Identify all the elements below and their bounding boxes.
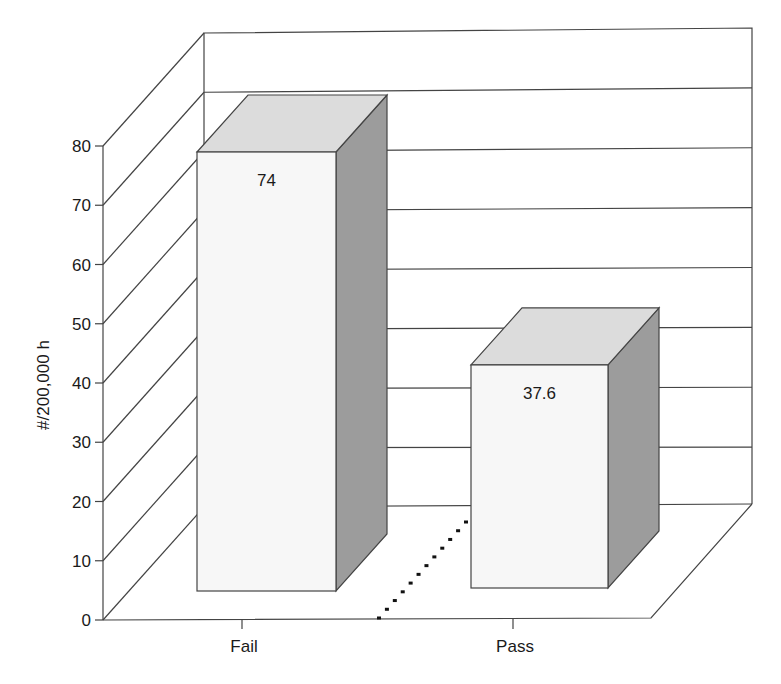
y-tick-label: 0	[82, 611, 91, 630]
side-gridline	[103, 152, 204, 265]
side-gridline	[103, 33, 204, 146]
y-tick-label: 20	[72, 493, 91, 512]
dot	[377, 617, 381, 620]
dot	[464, 521, 468, 524]
side-gridline	[103, 270, 204, 383]
dot	[424, 564, 428, 567]
y-tick-label: 10	[72, 552, 91, 571]
y-tick-label: 80	[72, 137, 91, 156]
dot	[393, 599, 397, 602]
side-gridline	[103, 448, 204, 561]
data-label: 74	[257, 171, 276, 190]
x-axis: FailPass	[230, 619, 534, 656]
y-tick-label: 60	[72, 256, 91, 275]
floor-left-edge	[103, 507, 204, 620]
dot	[448, 538, 452, 541]
y-tick-label: 30	[72, 433, 91, 452]
floor-dotted-line	[377, 521, 468, 620]
dot	[440, 547, 444, 550]
x-tick-label-pass: Pass	[496, 637, 534, 656]
side-gridline	[103, 329, 204, 442]
side-gridline	[103, 389, 204, 502]
bar-pass: 37.6	[471, 308, 659, 588]
bar-fail: 74	[197, 95, 387, 591]
dot	[401, 590, 405, 593]
bars: 7437.6	[197, 95, 659, 591]
bar-side-face	[336, 95, 387, 591]
bar-front-face	[197, 152, 336, 591]
dot	[385, 608, 389, 611]
dot	[432, 555, 436, 558]
side-gridline	[103, 211, 204, 324]
dot	[417, 573, 421, 576]
bar-chart-3d: 7437.6 01020304050607080 FailPass #/200,…	[0, 0, 781, 684]
back-gridline	[204, 88, 752, 92]
y-axis-label: #/200,000 h	[34, 340, 53, 430]
side-gridline	[103, 92, 204, 205]
data-label: 37.6	[523, 384, 556, 403]
x-tick-label-fail: Fail	[230, 637, 257, 656]
y-tick-label: 70	[72, 196, 91, 215]
y-tick-label: 50	[72, 315, 91, 334]
y-axis: 01020304050607080	[72, 137, 103, 630]
dot	[456, 529, 460, 532]
y-tick-label: 40	[72, 374, 91, 393]
dot	[409, 582, 413, 585]
